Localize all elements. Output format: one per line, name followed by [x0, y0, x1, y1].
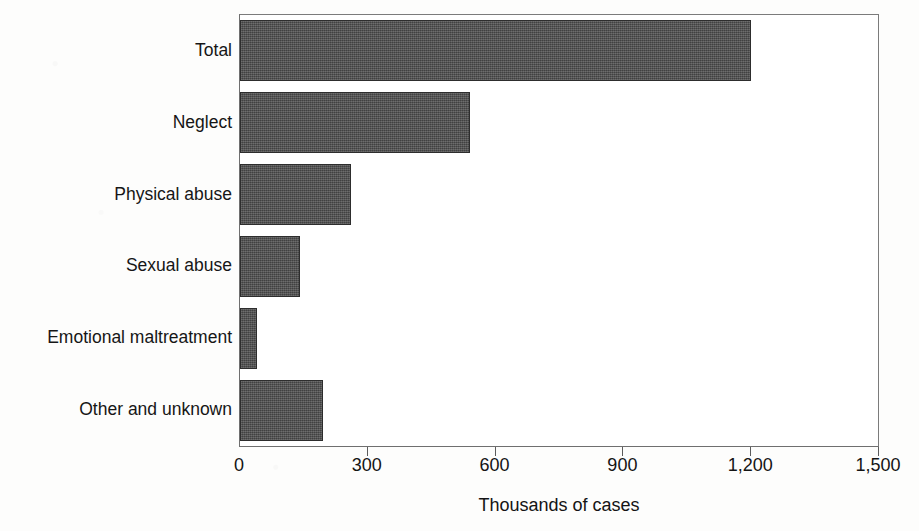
bar-other-and-unknown [240, 380, 323, 441]
bar-total [240, 20, 751, 81]
bar-sexual-abuse [240, 236, 300, 297]
bar-row [240, 20, 879, 81]
y-axis-label-emotional-maltreatment: Emotional maltreatment [47, 329, 232, 347]
y-axis-label-other-and-unknown: Other and unknown [79, 401, 232, 419]
x-tick-label-300: 300 [352, 456, 382, 474]
bar-row [240, 308, 879, 369]
x-axis-title: Thousands of cases [239, 496, 879, 514]
x-axis-tick-labels: 0 300 600 900 1,200 1,500 [0, 456, 919, 482]
y-axis-label-sexual-abuse: Sexual abuse [126, 257, 232, 275]
bars-container [240, 15, 879, 446]
bar-neglect [240, 92, 470, 153]
y-axis-label-total: Total [195, 42, 232, 60]
x-tick-label-900: 900 [607, 456, 637, 474]
bar-row [240, 236, 879, 297]
bar-row [240, 92, 879, 153]
y-axis-category-labels: Total Neglect Physical abuse Sexual abus… [0, 15, 232, 446]
bar-row [240, 380, 879, 441]
bar-physical-abuse [240, 164, 351, 225]
x-tick-label-1500: 1,500 [855, 456, 900, 474]
x-tick-label-600: 600 [480, 456, 510, 474]
bar-row [240, 164, 879, 225]
chart-page: Total Neglect Physical abuse Sexual abus… [0, 0, 919, 531]
x-tick-label-1200: 1,200 [728, 456, 773, 474]
y-axis-label-neglect: Neglect [173, 114, 232, 132]
x-tick-label-0: 0 [234, 456, 244, 474]
y-axis-label-physical-abuse: Physical abuse [114, 186, 232, 204]
bar-emotional-maltreatment [240, 308, 257, 369]
